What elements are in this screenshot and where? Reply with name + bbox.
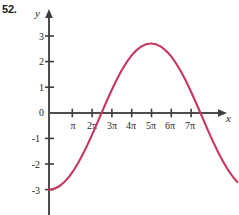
graph-figure: 52. y x 3 2 1 0 -1 -2 -3 π 2π 3π 4π 5π 6…	[0, 0, 239, 215]
graph-canvas	[0, 0, 239, 215]
curve-negative-three-cosine-half-x	[49, 44, 237, 190]
